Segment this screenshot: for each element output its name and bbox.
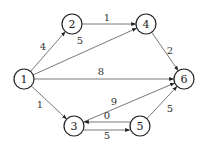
edge-line (33, 28, 137, 75)
edge-1-3: 1 (31, 86, 66, 119)
edge-2-4: 1 (82, 12, 136, 25)
edge-weight-label: 5 (104, 130, 110, 141)
edge-weight-label: 5 (77, 35, 83, 46)
edge-1-4: 5 (33, 28, 137, 75)
node-label: 3 (71, 120, 78, 133)
node-label: 5 (137, 120, 144, 133)
edge-weight-label: 2 (167, 45, 173, 56)
edge-4-6: 2 (152, 32, 179, 71)
node-label: 1 (21, 73, 28, 86)
edge-5-6: 5 (147, 86, 177, 118)
edge-3-6: 9 (83, 83, 175, 122)
node-1: 1 (14, 69, 34, 89)
edge-weight-label: 5 (167, 103, 173, 114)
edge-weight-label: 8 (98, 66, 104, 77)
node-3: 3 (64, 116, 84, 136)
node-label: 6 (181, 73, 188, 86)
node-label: 4 (143, 18, 150, 31)
node-5: 5 (130, 116, 150, 136)
edge-line (83, 83, 175, 122)
edge-weight-label: 1 (104, 12, 110, 23)
edge-3-5: 5 (84, 130, 130, 141)
edge-line (152, 32, 179, 71)
node-2: 2 (62, 14, 82, 34)
edge-weight-label: 1 (37, 99, 43, 110)
graph-diagram: 4581129055 123456 (0, 0, 206, 145)
edge-weight-label: 4 (40, 41, 46, 52)
node-4: 4 (136, 14, 156, 34)
edge-line (31, 32, 66, 72)
edge-weight-label: 9 (111, 96, 117, 107)
edge-1-6: 8 (34, 66, 174, 80)
edge-5-3: 0 (84, 110, 130, 123)
node-label: 2 (69, 18, 76, 31)
edge-weight-label: 0 (104, 110, 110, 121)
node-6: 6 (174, 69, 194, 89)
edge-1-2: 4 (31, 32, 66, 72)
